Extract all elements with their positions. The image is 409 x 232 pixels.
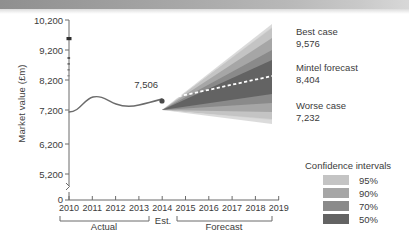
y-tick-label-5200: 5,200 <box>39 169 63 180</box>
y-tick-label-7200: 7,200 <box>39 105 63 116</box>
y-tick-label-9200: 9,200 <box>39 45 63 56</box>
y-axis-group: 10,200 9,200 8,200 7,200 6,200 5,200 0 <box>34 15 72 205</box>
annotation-worse-case: Worse case 7,232 <box>296 100 346 123</box>
legend-label-50: 50% <box>359 214 378 225</box>
legend-label-95: 95% <box>359 175 378 186</box>
legend-swatch-90 <box>323 188 349 198</box>
x-axis-group: 2010 2011 2012 2013 2014 2015 2016 2017 … <box>59 196 289 213</box>
y-tick-label-10200: 10,200 <box>34 15 63 26</box>
x-tick-label-2011: 2011 <box>83 203 102 213</box>
legend-swatch-50 <box>323 214 349 224</box>
scan-artifact-2 <box>68 57 71 59</box>
x-tick-label-2016: 2016 <box>199 203 219 213</box>
legend-item-90: 90% <box>305 187 391 199</box>
y-axis-ticks <box>65 20 69 200</box>
period-brackets-group: Actual Est. Forecast <box>60 215 272 232</box>
anchor-point-marker <box>159 98 164 103</box>
fan-chart: Market value (£m) 10,200 9,200 8,200 7,2… <box>0 0 409 232</box>
legend-swatch-95 <box>323 175 349 185</box>
x-tick-label-2019: 2019 <box>269 203 289 213</box>
bracket-label-est: Est. <box>155 215 171 226</box>
scan-artifact-5 <box>68 75 70 77</box>
x-tick-label-2017: 2017 <box>222 203 242 213</box>
legend-item-95: 95% <box>305 174 391 186</box>
worse-case-value: 7,232 <box>296 112 346 124</box>
bracket-label-actual: Actual <box>91 221 117 232</box>
x-tick-label-2010: 2010 <box>59 203 79 213</box>
x-axis-ticks <box>69 196 279 200</box>
legend-title: Confidence intervals <box>305 160 391 171</box>
legend-item-70: 70% <box>305 200 391 212</box>
legend-swatch-70 <box>323 201 349 211</box>
legend-item-50: 50% <box>305 213 391 225</box>
mintel-forecast-value: 8,404 <box>296 74 358 86</box>
anchor-value-label: 7,506 <box>134 79 158 90</box>
y-tick-label-8200: 8,200 <box>39 75 63 86</box>
scan-artifact-4 <box>68 69 70 71</box>
x-tick-label-2014: 2014 <box>152 203 172 213</box>
worse-case-label: Worse case <box>296 100 346 111</box>
bracket-label-forecast: Forecast <box>206 221 243 232</box>
best-case-value: 9,576 <box>296 38 338 50</box>
x-tick-label-2013: 2013 <box>129 203 149 213</box>
scan-artifact-1 <box>67 37 72 40</box>
y-tick-label-6200: 6,200 <box>39 139 63 150</box>
annotation-best-case: Best case 9,576 <box>296 26 338 49</box>
x-tick-label-2018: 2018 <box>245 203 265 213</box>
confidence-fan-group <box>162 24 272 124</box>
annotation-mintel-forecast: Mintel forecast 8,404 <box>296 62 358 85</box>
legend-label-90: 90% <box>359 188 378 199</box>
best-case-label: Best case <box>296 26 338 37</box>
actual-series-line <box>69 97 162 112</box>
scan-artifact-3 <box>68 63 70 65</box>
x-tick-label-2015: 2015 <box>175 203 195 213</box>
x-tick-label-2012: 2012 <box>106 203 126 213</box>
mintel-forecast-label: Mintel forecast <box>296 62 358 73</box>
legend-label-70: 70% <box>359 201 378 212</box>
legend: Confidence intervals 95% 90% 70% 50% <box>305 160 391 226</box>
